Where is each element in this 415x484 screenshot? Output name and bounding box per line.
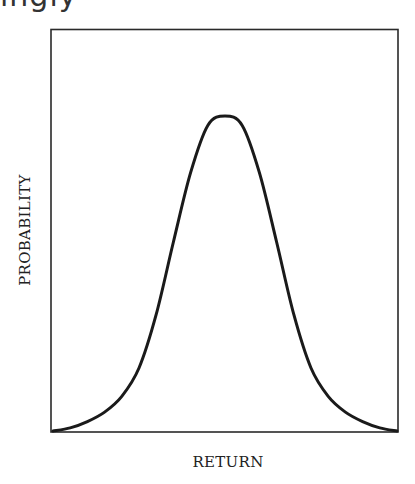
plot-frame: [51, 30, 398, 433]
x-axis-label: RETURN: [192, 453, 263, 471]
chart-area: [0, 0, 415, 484]
y-axis-label: PROBABILITY: [16, 174, 34, 286]
distribution-curve: [53, 116, 397, 431]
